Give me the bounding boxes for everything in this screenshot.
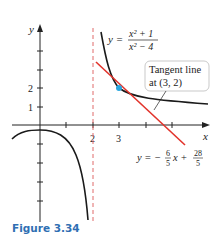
x-tick-label-3: 3 (116, 133, 121, 144)
x-axis-label: x (202, 130, 208, 142)
svg-text:5: 5 (196, 159, 200, 168)
svg-text:x +: x + (172, 152, 187, 163)
svg-text:y =: y = (107, 33, 123, 45)
svg-text:6: 6 (166, 149, 170, 158)
y-axis-label: y (28, 23, 34, 35)
x-axis (12, 122, 210, 128)
tangent-equation: y = − 6 5 x + 28 5 (136, 149, 203, 168)
figure-caption: Figure 3.34 (12, 222, 80, 234)
svg-text:Tangent line: Tangent line (149, 64, 201, 75)
y-tick-label-1: 1 (28, 102, 33, 113)
function-label: y = x² + 1 x² − 4 (107, 28, 158, 52)
graph: y x 2 3 1 2 y = x² + 1 x² − 4 Tangent li… (0, 0, 215, 242)
y-axis (37, 24, 43, 222)
tangent-point (116, 85, 122, 91)
svg-text:x² + 1: x² + 1 (128, 28, 153, 39)
y-tick-label-2: 2 (28, 83, 33, 94)
svg-text:28: 28 (194, 149, 202, 158)
svg-text:x² − 4: x² − 4 (128, 41, 153, 52)
svg-text:5: 5 (166, 159, 170, 168)
svg-text:y = −: y = − (136, 152, 161, 163)
curve-middle-branch (12, 130, 88, 220)
svg-text:at (3, 2): at (3, 2) (149, 77, 182, 89)
